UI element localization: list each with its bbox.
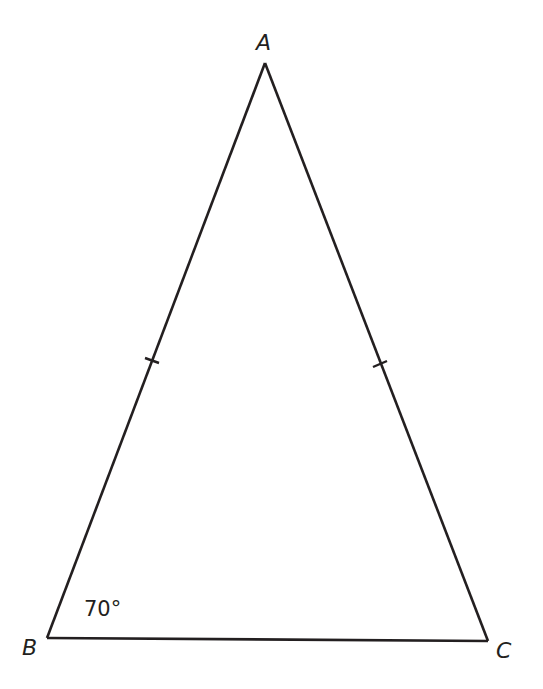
side-bc [47, 638, 488, 641]
side-ac [265, 63, 488, 641]
vertex-label-a: A [254, 30, 271, 55]
triangle-sides [47, 63, 488, 641]
congruence-tick-marks [145, 358, 387, 367]
isosceles-triangle-diagram: A B C 70° [0, 0, 543, 689]
side-ab [47, 63, 265, 638]
vertex-label-b: B [22, 635, 37, 660]
angle-b-measure: 70° [84, 597, 121, 621]
vertex-label-c: C [496, 638, 512, 663]
